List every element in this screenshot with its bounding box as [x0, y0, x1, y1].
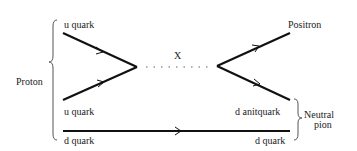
proton-label: Proton [16, 77, 43, 87]
d-quark-right-label: d quark [255, 136, 285, 146]
d-antiquark-line [217, 66, 290, 100]
positron-label: Positron [288, 20, 321, 30]
d-antiquark-label: d anitquark [235, 107, 280, 117]
proton-brace [49, 20, 57, 140]
x-boson-label: X [174, 51, 181, 61]
d-quark-left-label: d quark [64, 136, 94, 146]
u-quark-bottom-label: u quark [64, 107, 94, 117]
u-quark-bottom-line [63, 67, 137, 100]
positron-line [217, 33, 290, 66]
u-quark-top-label: u quark [64, 20, 94, 30]
pion-brace [294, 99, 302, 140]
pion-label: pion [314, 120, 332, 130]
